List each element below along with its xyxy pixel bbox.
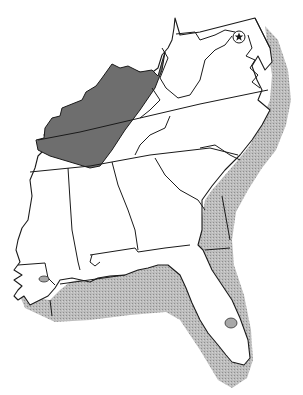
lake-okeechobee [225, 318, 237, 328]
lake-pontchartrain [39, 276, 49, 282]
southeast-us-map [0, 0, 303, 395]
star-marker-icon [233, 31, 245, 43]
